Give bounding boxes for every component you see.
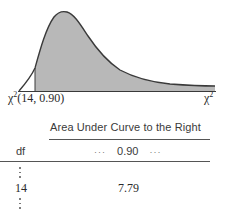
area-column-header: ··· 0.90 ··· — [94, 145, 194, 157]
ellipsis-left: ··· — [94, 147, 106, 157]
critical-value-args: (14, 0.90) — [17, 91, 64, 105]
header-underline — [49, 139, 210, 140]
area-value-0-90: 0.90 — [117, 145, 138, 157]
table-header-title: Area Under Curve to the Right — [50, 121, 201, 133]
df-column-header: df — [16, 145, 25, 157]
critical-value-label: χ2(14, 0.90) — [8, 91, 64, 106]
table-divider — [0, 161, 210, 162]
superscript-two: 2 — [209, 90, 213, 99]
x-axis-label: χ2 — [204, 91, 213, 106]
vertical-ellipsis-bottom — [19, 198, 21, 212]
table-row-df: 14 — [15, 181, 27, 196]
ellipsis-right: ··· — [150, 147, 162, 157]
table-row-value: 7.79 — [118, 181, 139, 196]
shaded-area-right — [35, 12, 215, 91]
vertical-ellipsis-top — [19, 167, 21, 181]
